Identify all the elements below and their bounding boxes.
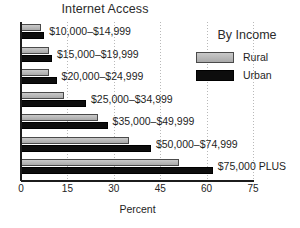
category-label: $35,000–$49,999 [113,115,195,127]
bar-urban [21,32,44,39]
legend: By Income Rural Urban [196,28,296,87]
legend-title: By Income [198,28,296,42]
bar-rural [21,114,98,121]
bar-rural [21,92,64,99]
chart-title: Internet Access [0,2,210,16]
bar-urban [21,77,57,84]
y-axis-line [20,22,22,181]
category-label: $75,000 PLUS [218,160,286,172]
bar-group: $75,000 PLUS [21,159,253,182]
bar-group: $25,000–$34,999 [21,92,253,115]
bar-urban [21,100,86,107]
legend-item-urban: Urban [196,69,296,81]
x-tick-label: 75 [247,183,258,194]
bar-urban [21,122,108,129]
bar-rural [21,137,129,144]
bar-rural [21,47,49,54]
bar-rural [21,159,179,166]
x-tick-label: 45 [155,183,166,194]
internet-access-bar-chart: Internet Access $10,000–$14,999$15,000–$… [0,0,300,228]
x-tick-label: 30 [108,183,119,194]
bar-urban [21,145,151,152]
legend-label-rural: Rural [243,51,268,63]
x-tick-label: 15 [62,183,73,194]
bar-rural [21,24,41,31]
category-label: $10,000–$14,999 [49,25,131,37]
legend-label-urban: Urban [243,69,272,81]
legend-item-rural: Rural [196,51,296,63]
x-axis-line [21,180,254,182]
x-tick-label: 60 [201,183,212,194]
rural-swatch-icon [196,52,234,63]
bar-urban [21,55,52,62]
category-label: $50,000–$74,999 [156,138,238,150]
x-axis-label: Percent [21,203,254,215]
bar-group: $35,000–$49,999 [21,114,253,137]
category-label: $15,000–$19,999 [57,48,139,60]
bar-rural [21,69,49,76]
category-label: $20,000–$24,999 [62,70,144,82]
bar-group: $50,000–$74,999 [21,137,253,160]
urban-swatch-icon [196,70,234,81]
bar-urban [21,167,213,174]
category-label: $25,000–$34,999 [91,93,173,105]
x-tick-label: 0 [18,183,24,194]
